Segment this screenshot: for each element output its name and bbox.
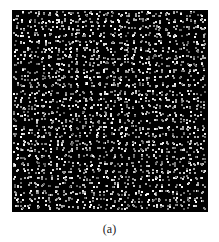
filter-patch (61, 61, 68, 68)
filter-patch (145, 32, 152, 39)
filter-patch (41, 118, 48, 125)
filter-patch (193, 182, 200, 189)
filter-patch (75, 68, 82, 75)
filter-patch (27, 68, 34, 75)
filter-patch (172, 61, 179, 68)
filter-patch (193, 18, 200, 25)
filter-patch (41, 147, 48, 154)
filter-patch (103, 161, 110, 168)
filter-patch (186, 204, 193, 211)
filter-patch (145, 161, 152, 168)
filter-patch (82, 47, 89, 54)
filter-patch (75, 190, 82, 197)
filter-patch (131, 97, 138, 104)
filter-patch (34, 54, 41, 61)
filter-patch (41, 75, 48, 82)
filter-patch (103, 32, 110, 39)
filter-patch (103, 175, 110, 182)
filter-patch (158, 168, 165, 175)
filter-patch (89, 97, 96, 104)
filter-patch (103, 111, 110, 118)
filter-patch (96, 40, 103, 47)
filter-patch (193, 111, 200, 118)
filter-patch (152, 204, 159, 211)
filter-patch (138, 47, 145, 54)
filter-patch (179, 11, 186, 18)
filter-patch (172, 82, 179, 89)
filter-patch (193, 140, 200, 147)
filter-patch (20, 90, 27, 97)
filter-patch (13, 90, 20, 97)
filter-patch (117, 125, 124, 132)
filter-patch (179, 47, 186, 54)
filter-patch (110, 104, 117, 111)
filter-patch (145, 11, 152, 18)
filter-patch (186, 40, 193, 47)
filter-patch (34, 111, 41, 118)
filter-patch (20, 61, 27, 68)
filter-patch (131, 47, 138, 54)
filter-patch (193, 204, 200, 211)
filter-patch (103, 75, 110, 82)
filter-patch (110, 90, 117, 97)
filter-patch (34, 190, 41, 197)
filter-patch (158, 32, 165, 39)
filter-patch (165, 25, 172, 32)
filter-patch (200, 161, 207, 168)
filter-patch (61, 147, 68, 154)
filter-patch (61, 11, 68, 18)
filter-patch (124, 161, 131, 168)
filter-patch (152, 140, 159, 147)
filter-patch (61, 168, 68, 175)
filter-patch (27, 118, 34, 125)
filter-patch (96, 147, 103, 154)
filter-patch (41, 32, 48, 39)
filter-patch (117, 54, 124, 61)
filter-patch (13, 61, 20, 68)
filter-patch (68, 204, 75, 211)
filter-patch (200, 25, 207, 32)
filter-patch (68, 18, 75, 25)
filter-patch (96, 82, 103, 89)
filter-patch (145, 68, 152, 75)
filter-patch (61, 140, 68, 147)
filter-patch (165, 182, 172, 189)
filter-patch (158, 161, 165, 168)
filter-patch (138, 68, 145, 75)
filter-patch (110, 161, 117, 168)
filter-patch (34, 25, 41, 32)
filter-patch (124, 47, 131, 54)
filter-patch (152, 40, 159, 47)
filter-patch (131, 118, 138, 125)
filter-patch (13, 168, 20, 175)
filter-patch (152, 161, 159, 168)
filter-patch (110, 175, 117, 182)
filter-patch (172, 182, 179, 189)
filter-patch (68, 61, 75, 68)
filter-patch (193, 11, 200, 18)
filter-patch (172, 104, 179, 111)
filter-patch (158, 68, 165, 75)
filter-patch (13, 147, 20, 154)
filter-patch (186, 111, 193, 118)
filter-patch (75, 204, 82, 211)
filter-patch (152, 190, 159, 197)
filter-patch (103, 154, 110, 161)
filter-patch (96, 154, 103, 161)
filter-patch (193, 161, 200, 168)
filter-patch (20, 132, 27, 139)
filter-patch (55, 140, 62, 147)
filter-patch (145, 125, 152, 132)
filter-patch (27, 61, 34, 68)
filter-patch (165, 32, 172, 39)
filter-patch (152, 18, 159, 25)
filter-patch (193, 118, 200, 125)
filter-patch (55, 111, 62, 118)
filter-patch (75, 182, 82, 189)
filter-patch (61, 97, 68, 104)
filter-patch (61, 204, 68, 211)
filter-patch (186, 54, 193, 61)
filter-patch (68, 104, 75, 111)
filter-patch (200, 140, 207, 147)
filter-patch (89, 204, 96, 211)
